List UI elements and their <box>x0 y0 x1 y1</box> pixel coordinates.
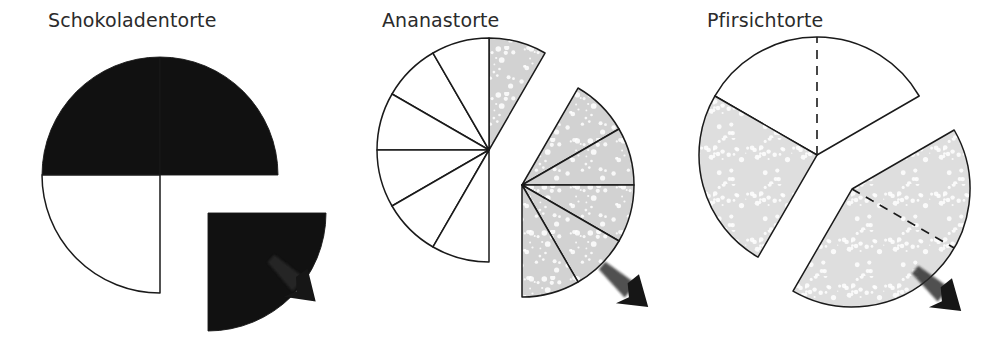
pie-figure: SchokoladentorteAnanastortePfirsichtorte <box>0 0 1001 355</box>
pie-panel-1: Schokoladentorte <box>0 0 334 355</box>
slice-slice-top-right <box>160 57 278 175</box>
pie-slice <box>42 57 160 175</box>
slice-slice-shaded-explode <box>793 130 970 307</box>
pie-panel-3: Pfirsichtorte <box>667 0 1001 355</box>
pie-slice <box>160 57 278 175</box>
slice-slice-top-left <box>42 57 160 175</box>
pie-chart-1 <box>0 0 334 355</box>
pie-chart-2 <box>334 0 668 355</box>
pie-chart-3 <box>667 0 1001 355</box>
slice-slice-1 <box>489 38 545 150</box>
slice-slice-bottom-left <box>42 175 160 293</box>
pie-panel-2: Ananastorte <box>334 0 668 355</box>
pie-slice <box>793 130 970 307</box>
pie-slice <box>489 38 545 150</box>
pie-slice <box>42 175 160 293</box>
